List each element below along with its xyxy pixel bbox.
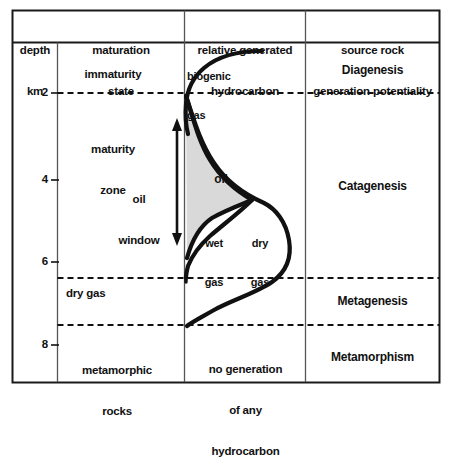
header-maturation-line2: state [58, 85, 184, 99]
source-stage-metagenesis: Metagenesis [306, 294, 439, 308]
curve-label-biogenic-gas: biogenic gas [187, 44, 245, 148]
no-generation-block: no generation of any hydrocarbon [186, 336, 305, 461]
biogenic-gas-line2: gas [187, 109, 245, 122]
metamorphic-line2: rocks [58, 405, 176, 419]
no-generation-line1: no generation [186, 363, 305, 377]
header-depth-line1: depth [12, 44, 58, 58]
source-stage-metamorphism: Metamorphism [306, 350, 439, 364]
metamorphic-line1: metamorphic [58, 364, 176, 378]
oil-window-arrow [172, 118, 182, 246]
depth-label-4: 4 [22, 173, 48, 187]
maturation-zone-metamorphic-rocks: metamorphic rocks [58, 337, 176, 446]
oil-window-label: oil window [106, 166, 172, 275]
no-generation-line2: of any [186, 404, 305, 418]
oil-window-line1: oil [106, 193, 172, 207]
maturation-zone-immaturity: immaturity [58, 68, 168, 82]
curve-label-dry-gas: dry gas [240, 211, 280, 315]
dry-gas-line1: dry [240, 237, 280, 250]
source-stage-catagenesis: Catagenesis [306, 179, 439, 193]
maturity-line1: maturity [58, 143, 168, 157]
header-depth: depth km [12, 17, 58, 126]
curve-label-oil: oil [203, 172, 239, 186]
wet-gas-line2: gas [193, 276, 235, 289]
source-stage-diagenesis: Diagenesis [306, 63, 439, 77]
header-source-line2: generation potentiality [306, 85, 439, 99]
header-maturation-line1: maturation [58, 44, 184, 58]
dry-gas-line2: gas [240, 276, 280, 289]
header-source-line1: source rock [306, 44, 439, 58]
depth-label-2: 2 [22, 86, 48, 100]
no-generation-line3: hydrocarbon [186, 445, 305, 459]
maturation-zone-dry-gas: dry gas [66, 287, 176, 301]
biogenic-gas-line1: biogenic [187, 70, 245, 83]
wet-gas-line1: wet [193, 237, 235, 250]
depth-label-8: 8 [22, 338, 48, 352]
curve-label-wet-gas: wet gas [193, 211, 235, 315]
oil-window-line2: window [106, 234, 172, 248]
depth-label-6: 6 [22, 255, 48, 269]
